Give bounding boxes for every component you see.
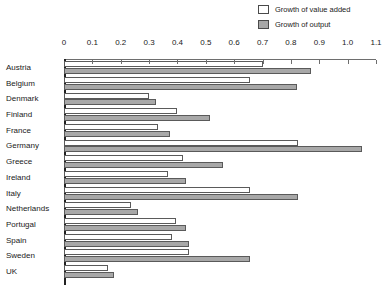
y-axis-category-label: Portugal xyxy=(0,217,62,233)
bar-row xyxy=(64,186,376,202)
bar-value-added xyxy=(64,140,298,146)
x-axis-tick-label: 0.1 xyxy=(87,38,98,48)
x-axis-tick-label: 0.9 xyxy=(314,38,325,48)
chart-legend: Growth of value addedGrowth of output xyxy=(258,3,382,33)
bar-row xyxy=(64,60,376,76)
x-axis-tick-mark xyxy=(263,60,264,64)
bar-value-added xyxy=(64,249,189,255)
plot-area xyxy=(64,59,376,285)
bar-value-added xyxy=(64,108,177,114)
bar-value-added xyxy=(64,124,158,130)
bar-value-added xyxy=(64,187,250,193)
bar-row xyxy=(64,138,376,154)
bar-value-added xyxy=(64,218,176,224)
x-axis-tick-label: 1.0 xyxy=(342,38,353,48)
y-axis-category-label: Austria xyxy=(0,60,62,76)
x-axis-tick-mark xyxy=(348,60,349,64)
x-axis-tick-label: 0.5 xyxy=(200,38,211,48)
x-axis-tick-mark xyxy=(92,60,93,64)
x-axis-tick-label: 0.2 xyxy=(115,38,126,48)
bar-output xyxy=(64,131,170,137)
y-axis-category-label: Greece xyxy=(0,154,62,170)
legend-item: Growth of output xyxy=(258,18,382,31)
bar-output xyxy=(64,84,297,90)
bar-output xyxy=(64,194,298,200)
legend-item-label: Growth of value added xyxy=(275,5,350,14)
y-axis-category-label: Sweden xyxy=(0,248,62,264)
bar-value-added xyxy=(64,155,183,161)
bar-output xyxy=(64,209,138,215)
y-axis-category-label: Spain xyxy=(0,233,62,249)
x-axis-tick-label: 1.1 xyxy=(370,38,381,48)
x-axis-tick-mark xyxy=(206,60,207,64)
bar-row xyxy=(64,264,376,280)
y-axis-category-label: Belgium xyxy=(0,76,62,92)
x-axis-tick-mark xyxy=(121,60,122,64)
bar-value-added xyxy=(64,93,149,99)
x-axis-tick-label: 0.6 xyxy=(229,38,240,48)
x-axis-tick-mark xyxy=(319,60,320,64)
y-axis-category-label: Ireland xyxy=(0,170,62,186)
bar-output xyxy=(64,162,223,168)
bar-output xyxy=(64,178,186,184)
y-axis-category-label: Netherlands xyxy=(0,201,62,217)
bar-value-added xyxy=(64,61,263,67)
y-axis-category-label: Germany xyxy=(0,138,62,154)
x-axis-tick-mark xyxy=(291,60,292,64)
x-axis-tick-mark xyxy=(149,60,150,64)
x-axis-tick-label: 0.7 xyxy=(257,38,268,48)
x-axis-tick-mark xyxy=(177,60,178,64)
legend-item: Growth of value added xyxy=(258,3,382,16)
bar-row xyxy=(64,201,376,217)
x-axis-tick-label: 0.4 xyxy=(172,38,183,48)
bar-output xyxy=(64,241,189,247)
bar-output xyxy=(64,115,210,121)
y-axis-category-label: Finland xyxy=(0,107,62,123)
bar-row xyxy=(64,91,376,107)
bar-row xyxy=(64,248,376,264)
y-axis-category-label: Italy xyxy=(0,186,62,202)
bar-output xyxy=(64,272,114,278)
bar-output xyxy=(64,225,186,231)
bar-value-added xyxy=(64,265,108,271)
bar-row xyxy=(64,154,376,170)
bar-rows xyxy=(64,60,376,280)
bar-value-added xyxy=(64,77,250,83)
legend-item-label: Growth of output xyxy=(275,20,330,29)
y-axis-category-labels: AustriaBelgiumDenmarkFinlandFranceGerman… xyxy=(0,60,62,280)
bar-row xyxy=(64,123,376,139)
x-axis-tick-mark xyxy=(234,60,235,64)
bar-value-added xyxy=(64,234,172,240)
legend-swatch-value-added-icon xyxy=(258,5,269,14)
bar-output xyxy=(64,68,311,74)
bar-value-added xyxy=(64,202,131,208)
x-axis-tick-labels: 00.10.20.30.40.50.60.70.80.91.01.1 xyxy=(0,38,385,50)
bar-row xyxy=(64,233,376,249)
y-axis-category-label: Denmark xyxy=(0,91,62,107)
bar-row xyxy=(64,107,376,123)
legend-swatch-output-icon xyxy=(258,20,269,29)
bar-output xyxy=(64,146,362,152)
x-axis-tick-label: 0.3 xyxy=(144,38,155,48)
bar-value-added xyxy=(64,171,168,177)
y-axis-category-label: France xyxy=(0,123,62,139)
x-axis-tick-label: 0 xyxy=(62,38,66,48)
bar-output xyxy=(64,99,156,105)
bar-row xyxy=(64,170,376,186)
x-axis-tick-mark xyxy=(376,60,377,64)
bar-output xyxy=(64,256,250,262)
bar-row xyxy=(64,76,376,92)
y-axis-category-label: UK xyxy=(0,264,62,280)
bar-row xyxy=(64,217,376,233)
x-axis-tick-label: 0.8 xyxy=(285,38,296,48)
